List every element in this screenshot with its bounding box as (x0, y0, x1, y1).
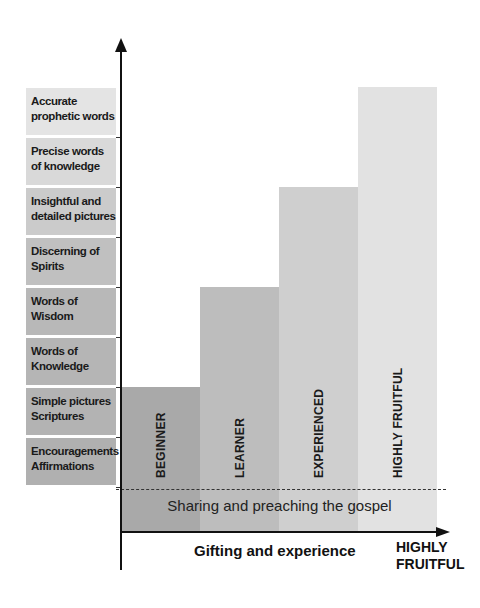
arrow-right-icon (436, 527, 450, 537)
gift-level-label: Precise wordsof knowledge (26, 138, 116, 185)
gift-level-label-line1: Insightful and (31, 194, 116, 209)
gift-level-label-line1: Simple pictures (31, 394, 116, 409)
y-axis (120, 48, 122, 570)
gift-level-label: EncouragementsAffirmations (26, 438, 116, 485)
x-axis-end-label-line1: HIGHLY (396, 539, 464, 556)
x-axis-label: Gifting and experience (194, 542, 356, 559)
gift-level-label-line1: Discerning of (31, 244, 116, 259)
gift-level-label: Accurateprophetic words (26, 88, 116, 135)
gift-level-label: Words ofWisdom (26, 288, 116, 335)
arrow-up-icon (115, 38, 127, 52)
x-axis-end-label-line2: FRUITFUL (396, 556, 464, 573)
diagram: Accurateprophetic wordsPrecise wordsof k… (0, 0, 480, 608)
bar-label: BEGINNER (154, 412, 168, 478)
gospel-band-label: Sharing and preaching the gospel (121, 497, 438, 514)
gift-level-label-line2: Affirmations (31, 459, 116, 474)
gift-level-label-line1: Words of (31, 294, 116, 309)
gospel-baseline-dashed-line (116, 489, 446, 490)
gift-level-label: Discerning ofSpirits (26, 238, 116, 285)
bar-learner (200, 287, 279, 531)
gift-level-label-line1: Words of (31, 344, 116, 359)
gift-level-label-line1: Precise words (31, 144, 116, 159)
bar-label: LEARNER (233, 418, 247, 478)
gift-level-label-line2: Spirits (31, 259, 116, 274)
gift-level-label: Simple picturesScriptures (26, 388, 116, 435)
gift-level-label-line2: Scriptures (31, 409, 116, 424)
gift-level-label-line1: Accurate (31, 94, 116, 109)
bar-label: HIGHLY FRUITFUL (391, 367, 405, 478)
gift-level-label-line2: Wisdom (31, 309, 116, 324)
gift-level-label-line2: prophetic words (31, 109, 116, 124)
bar-experienced (279, 187, 358, 531)
bar-label: EXPERIENCED (312, 389, 326, 478)
gift-level-label: Words ofKnowledge (26, 338, 116, 385)
gift-level-label-line2: Knowledge (31, 359, 116, 374)
gift-level-label-line2: of knowledge (31, 159, 116, 174)
x-axis-end-label: HIGHLY FRUITFUL (396, 539, 464, 573)
gift-level-label-line1: Encouragements (31, 444, 116, 459)
gift-level-label: Insightful anddetailed pictures (26, 188, 116, 235)
x-axis (120, 531, 438, 533)
gift-level-label-line2: detailed pictures (31, 209, 116, 224)
